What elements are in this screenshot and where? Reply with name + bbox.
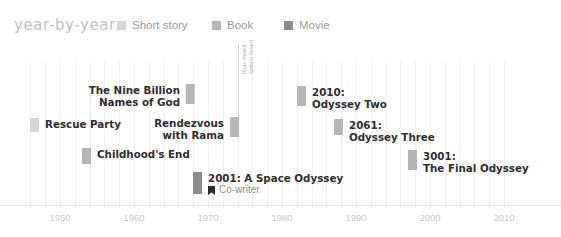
axis-tick [104, 203, 105, 207]
gridline [474, 62, 475, 205]
entry-swatch [82, 148, 91, 164]
entry-label-line: Odyssey Two [312, 98, 387, 110]
axis-tick [282, 203, 283, 207]
legend-label: Short story [132, 19, 188, 31]
axis-tick [90, 203, 91, 207]
timeline-entry[interactable]: Rescue Party [30, 118, 121, 132]
timeline-entry[interactable]: The Nine BillionNames of God [89, 84, 195, 109]
axis-tick [460, 203, 461, 207]
gridline [45, 62, 46, 205]
award-label: Hugo Award [241, 40, 247, 75]
axis-tick [45, 203, 46, 207]
timeline-entry[interactable]: 2001: A Space OdysseyCo-writer [193, 172, 343, 197]
entry-label: Rescue Party [45, 118, 121, 130]
entry-label: Childhood's End [97, 148, 190, 160]
axis-tick [474, 203, 475, 207]
entry-swatch [230, 117, 239, 137]
entry-label-line: 2061: [349, 119, 435, 131]
entry-label-line: 2001: A Space Odyssey [208, 172, 343, 184]
entry-label-line: 2010: [312, 86, 387, 98]
entry-label: Rendezvouswith Rama [154, 117, 224, 142]
legend-swatch-icon [212, 21, 221, 30]
axis-tick [119, 203, 120, 207]
axis-tick [312, 203, 313, 207]
axis-tick-label: 1960 [123, 212, 144, 223]
axis-tick [60, 203, 61, 207]
timeline-entry[interactable]: 2010:Odyssey Two [297, 86, 387, 111]
legend-swatch-icon [284, 21, 293, 30]
gridline [460, 62, 461, 205]
award-label: Nebula Award [248, 40, 254, 75]
gridline [445, 62, 446, 205]
entry-label-line: The Nine Billion [89, 84, 180, 96]
timeline-chart: year-by-year Short storyBookMovie Hugo A… [0, 0, 561, 237]
legend-item-book[interactable]: Book [212, 19, 253, 31]
axis-tick [386, 203, 387, 207]
legend-item-movie[interactable]: Movie [284, 19, 330, 31]
entry-swatch [297, 86, 306, 106]
legend-item-short-story[interactable]: Short story [117, 19, 188, 31]
entry-label: 2061:Odyssey Three [349, 119, 435, 144]
axis-tick [134, 203, 135, 207]
axis-tick [164, 203, 165, 207]
timeline-entry[interactable]: 3001:The Final Odyssey [408, 150, 529, 175]
axis-tick [326, 203, 327, 207]
axis-tick-label: 1970 [197, 212, 218, 223]
entry-label: 2001: A Space OdysseyCo-writer [208, 172, 343, 197]
axis-tick-label: 1980 [271, 212, 292, 223]
axis-tick [297, 203, 298, 207]
axis-tick [252, 203, 253, 207]
axis-tick-label: 1990 [345, 212, 366, 223]
x-axis-line [0, 205, 561, 206]
entry-swatch [408, 150, 417, 170]
axis-tick [371, 203, 372, 207]
entry-label: The Nine BillionNames of God [89, 84, 180, 109]
axis-tick [75, 203, 76, 207]
entry-swatch [186, 84, 195, 104]
axis-tick [30, 203, 31, 207]
entry-label: 3001:The Final Odyssey [423, 150, 529, 175]
entry-label-line: Childhood's End [97, 148, 190, 160]
legend-label: Movie [299, 19, 330, 31]
entry-label-line: with Rama [154, 129, 224, 141]
gridline [60, 62, 61, 205]
entry-swatch [334, 119, 343, 135]
entry-swatch [30, 118, 39, 132]
legend-label: Book [227, 19, 253, 31]
axis-tick [238, 203, 239, 207]
page-title: year-by-year [14, 16, 116, 34]
axis-tick-label: 1950 [49, 212, 70, 223]
bookmark-icon [208, 186, 215, 195]
gridline [489, 62, 490, 205]
gridline [504, 62, 505, 205]
entry-swatch [193, 172, 202, 194]
axis-tick [504, 203, 505, 207]
entry-subnote-label: Co-writer [219, 184, 260, 196]
axis-tick [178, 203, 179, 207]
axis-tick [149, 203, 150, 207]
axis-tick [267, 203, 268, 207]
timeline-entry[interactable]: Rendezvouswith Rama [154, 117, 239, 142]
axis-tick [445, 203, 446, 207]
entry-label-line: Rendezvous [154, 117, 224, 129]
entry-label-line: Odyssey Three [349, 131, 435, 143]
axis-tick [415, 203, 416, 207]
entry-label-line: 3001: [423, 150, 529, 162]
gridline [30, 62, 31, 205]
axis-tick [356, 203, 357, 207]
gridline [75, 62, 76, 205]
axis-tick [489, 203, 490, 207]
award-labels: Hugo AwardNebula Award [241, 40, 254, 75]
axis-tick [208, 203, 209, 207]
entry-label-line: Rescue Party [45, 118, 121, 130]
axis-tick [400, 203, 401, 207]
legend-swatch-icon [117, 21, 126, 30]
axis-tick [193, 203, 194, 207]
timeline-entry[interactable]: Childhood's End [82, 148, 190, 164]
axis-tick-label: 2010 [493, 212, 514, 223]
timeline-entry[interactable]: 2061:Odyssey Three [334, 119, 435, 144]
entry-label-line: Names of God [89, 96, 180, 108]
axis-tick [223, 203, 224, 207]
entry-label: 2010:Odyssey Two [312, 86, 387, 111]
axis-tick [341, 203, 342, 207]
